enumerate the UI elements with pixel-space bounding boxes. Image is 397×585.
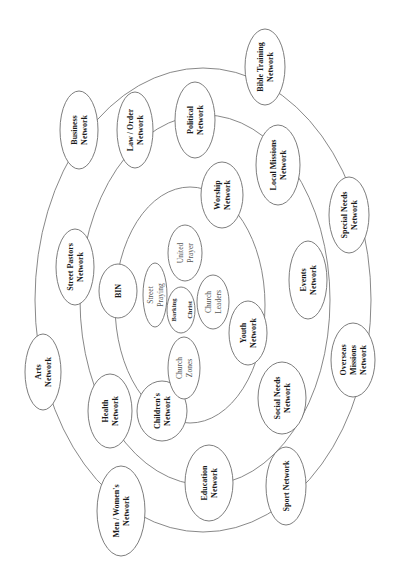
node-label: ChurchLeaders [204,290,223,314]
node-church-zones: ChurchZones [168,337,200,399]
node-ellipse [56,229,94,305]
node-label-line: Events [299,268,308,291]
node-label-line: Church [204,291,213,313]
node-ellipse [185,445,233,521]
node-label-line: Praying [156,283,165,307]
node-label: PoliticalNetwork [186,105,205,135]
node-label-line: Special Needs [340,192,349,239]
node-label-line: Overseas [339,344,348,375]
node-label-line: Network [76,252,85,282]
node-label-line: Network [350,200,359,230]
node-label-line: Network [279,150,288,180]
core-nodes: StreetPrayingUnitedPrayerChurchLeadersCh… [143,225,229,399]
node-label-line: Youth [239,322,248,343]
node-label: WorshipNetwork [213,180,232,210]
node-youth-network: YouthNetwork [229,301,267,365]
node-barking-christ: BarkingChrist [167,287,195,333]
node-label-line: Network [122,496,131,526]
node-men-womens-network: Men / Women'sNetwork [97,466,145,556]
node-label-line: Church [175,357,184,379]
node-label-line: Network [210,468,219,498]
node-label-line: Local Missions [269,140,278,191]
node-social-needs-network: Social NeedsNetwork [258,362,306,434]
node-special-needs-network: Special NeedsNetwork [329,177,369,253]
node-label-line: Worship [213,180,222,210]
node-worship-network: WorshipNetwork [201,162,243,228]
node-label-line: Business [70,115,79,144]
node-label-line: Missions [349,345,358,375]
node-label: EventsNetwork [299,265,318,295]
node-ellipse [256,125,300,205]
node-label-line: Men / Women's [112,484,121,537]
node-bible-training-network: Bible TrainingNetwork [245,29,285,105]
node-label: HealthNetwork [101,396,120,426]
node-label: ChurchZones [175,357,194,379]
node-street-praying: StreetPraying [143,263,167,327]
node-label: EducationNetwork [200,465,219,501]
node-label-line: Sport Network [282,460,291,511]
node-label: UnitedPrayer [176,243,195,264]
node-label-line: Network [266,52,275,82]
node-ellipse [60,91,98,169]
node-label-line: Law / Order [126,108,135,151]
node-label-line: BIN [114,284,123,298]
node-label: BusinessNetwork [70,115,89,145]
node-label-line: Leaders [214,290,223,314]
node-ellipse [329,177,369,253]
node-label: BIN [114,284,123,298]
node-label-line: Network [223,180,232,210]
node-label: StreetPraying [146,283,165,307]
node-ellipse [245,29,285,105]
node-ellipse [25,334,61,410]
node-label-line: Network [111,396,120,426]
node-ellipse [168,225,202,281]
node-events-network: EventsNetwork [289,241,327,319]
node-business-network: BusinessNetwork [60,91,98,169]
node-local-missions-network: Local MissionsNetwork [256,125,300,205]
node-ellipse [168,337,200,399]
node-law-order-network: Law / OrderNetwork [117,92,153,168]
node-label-line: Education [200,465,209,501]
node-label-line: Network [163,396,172,426]
node-label: OverseasMissionsNetwork [339,344,368,375]
node-label-line: Network [309,265,318,295]
node-label-line: Health [101,399,110,423]
node-ellipse [197,275,229,329]
node-label-line: Street Pastors [66,243,75,291]
node-ellipse [258,362,306,434]
node-label-line: Network [80,115,89,145]
node-ellipse [175,82,215,158]
node-label-line: Network [249,318,258,348]
node-label-line: Children's [153,393,162,429]
node-label: Sport Network [282,460,291,511]
node-label-line: Political [186,105,195,134]
node-label-line: Network [283,383,292,413]
node-label-line: Network [44,357,53,387]
node-label-line: Barking [170,298,177,322]
node-label-line: Network [359,345,368,375]
node-church-leaders: ChurchLeaders [197,275,229,329]
node-ellipse [229,301,267,365]
node-ellipse [289,241,327,319]
node-sport-network: Sport Network [266,447,306,525]
node-label-line: Street [146,285,155,303]
node-political-network: PoliticalNetwork [175,82,215,158]
node-label-line: United [176,243,185,264]
node-ellipse [201,162,243,228]
node-label-line: Zones [185,359,194,377]
node-united-prayer: UnitedPrayer [168,225,202,281]
node-bin: BIN [99,264,137,318]
network-diagram: BusinessNetworkBible TrainingNetworkSpec… [0,0,397,585]
node-street-pastors-network: Street PastorsNetwork [56,229,94,305]
node-label-line: Christ [186,300,193,319]
node-ellipse [97,466,145,556]
node-label: Children'sNetwork [153,393,172,429]
node-label-line: Social Needs [273,377,282,420]
node-label-line: Arts [34,364,43,379]
node-label-line: Network [196,105,205,135]
node-ellipse [88,374,132,448]
node-overseas-missions-network: OverseasMissionsNetwork [331,323,375,397]
node-ellipse [117,92,153,168]
node-label-line: Network [136,115,145,145]
node-education-network: EducationNetwork [185,445,233,521]
